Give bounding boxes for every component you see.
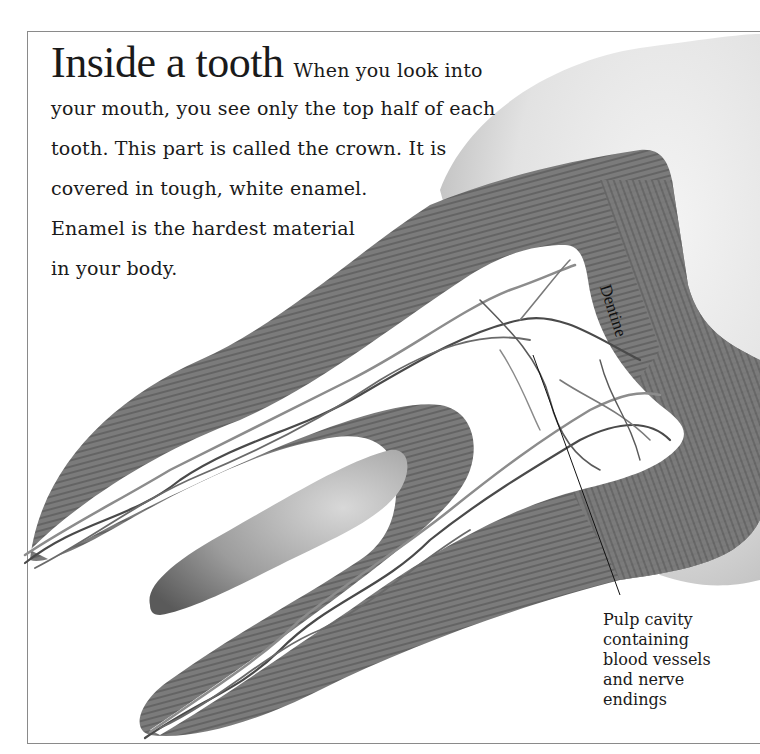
intro-line-5: Enamel is the hardest material bbox=[51, 208, 521, 248]
pulp-cavity-label: Pulp cavity containing blood vessels and… bbox=[603, 610, 711, 710]
intro-line-6: in your body. bbox=[51, 248, 521, 288]
page: Inside a toothWhen you look into your mo… bbox=[0, 0, 760, 754]
page-title: Inside a tooth bbox=[51, 38, 284, 87]
intro-text: Inside a toothWhen you look into your mo… bbox=[51, 38, 521, 288]
intro-line-4: covered in tough, white enamel. bbox=[51, 168, 521, 208]
intro-line-2: your mouth, you see only the top half of… bbox=[51, 88, 521, 128]
intro-line-3: tooth. This part is called the crown. It… bbox=[51, 128, 521, 168]
intro-line-1: Inside a toothWhen you look into bbox=[51, 38, 521, 88]
